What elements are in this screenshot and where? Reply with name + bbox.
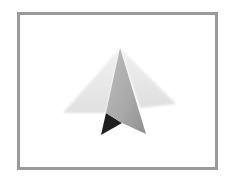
pyramid-artwork — [0, 0, 231, 180]
caption: ···· — [15, 172, 21, 177]
